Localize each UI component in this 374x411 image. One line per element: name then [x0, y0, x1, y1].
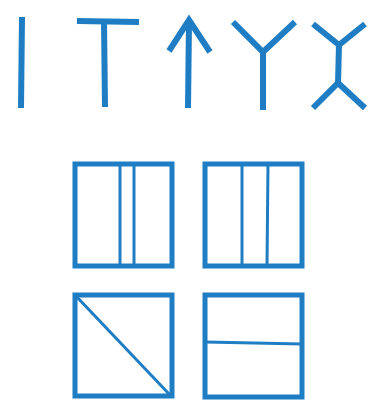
symbol-y	[233, 22, 295, 110]
box-two-spread-verticals	[205, 164, 302, 266]
box-two-close-verticals	[75, 164, 172, 266]
symbol-x	[313, 24, 365, 108]
symbol-t	[77, 21, 139, 107]
symbol-i	[21, 17, 22, 108]
symbol-arrow	[169, 20, 210, 108]
diagram-canvas	[0, 0, 374, 411]
box-horizontal	[205, 295, 302, 397]
diagram-svg	[0, 0, 374, 411]
box-diagonal	[75, 295, 172, 396]
